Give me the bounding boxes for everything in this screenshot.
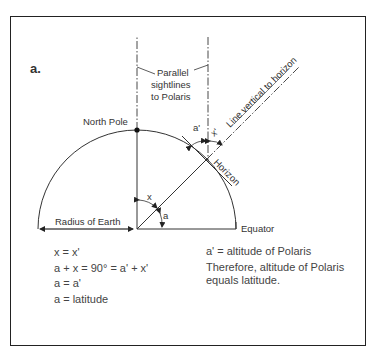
- north-pole-marker: [134, 127, 139, 132]
- label-angle-x: x: [147, 191, 152, 202]
- earth-arc-left: [38, 130, 137, 229]
- label-north-pole: North Pole: [83, 116, 128, 127]
- label-angle-x-prime: x': [208, 126, 220, 139]
- equation: a = a': [54, 276, 148, 292]
- label-parallel-3: to Polaris: [151, 91, 191, 102]
- label-angle-a: a: [163, 210, 169, 221]
- equation: a = latitude: [54, 292, 148, 308]
- equations-right: a' = altitude of Polaris Therefore, alti…: [206, 245, 344, 287]
- equation: a + x = 90° = a' + x': [54, 261, 148, 277]
- equation: x = x': [54, 245, 148, 261]
- angle-x-prime-arc: [210, 141, 222, 145]
- label-angle-a-prime: a': [193, 122, 200, 133]
- angle-a-arc: [160, 213, 162, 227]
- label-horizon: Horizon: [212, 157, 243, 188]
- label-parallel-1: Parallel: [157, 67, 189, 78]
- conclusion: Therefore, altitude of Polaris: [206, 261, 344, 274]
- label-line-vertical: Line vertical to horizon: [224, 54, 299, 129]
- angle-a-prime-arc: [191, 141, 206, 146]
- equation: a' = altitude of Polaris: [206, 245, 344, 258]
- panel-label: a.: [30, 61, 41, 76]
- conclusion: equals latitude.: [206, 274, 344, 287]
- label-parallel-2: sightlines: [151, 79, 191, 90]
- label-radius: Radius of Earth: [55, 216, 120, 227]
- line-vertical-to-horizon: [207, 66, 300, 159]
- equations-left: x = x' a + x = 90° = a' + x' a = a' a = …: [54, 245, 148, 307]
- label-equator: Equator: [241, 223, 274, 234]
